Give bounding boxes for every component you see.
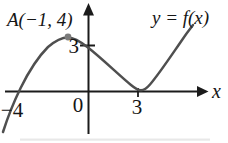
function-graph-canvas: A(−1, 4) y = f(x) x 3 0 3 −4 — [0, 0, 228, 143]
scan-shadow-artifact — [20, 139, 210, 141]
x-axis — [5, 86, 209, 97]
y-axis — [83, 3, 94, 134]
x-axis-label: x — [211, 80, 221, 102]
x-tick-3-label: 3 — [132, 95, 143, 119]
point-a-label: A(−1, 4) — [5, 9, 73, 31]
y-axis-arrow-icon — [83, 3, 94, 16]
function-label: y = f(x) — [150, 7, 209, 29]
origin-label: 0 — [73, 93, 84, 117]
x-tick-neg4-label: −4 — [1, 98, 24, 122]
function-graph-figure: A(−1, 4) y = f(x) x 3 0 3 −4 — [0, 0, 228, 143]
x-axis-arrow-icon — [197, 86, 209, 97]
y-tick-3-label: 3 — [69, 34, 80, 58]
function-curve — [3, 25, 193, 132]
